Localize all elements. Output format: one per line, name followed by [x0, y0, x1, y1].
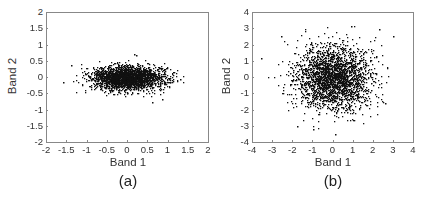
- x-tick-mark: [333, 140, 334, 142]
- y-tick-label: 1: [223, 55, 249, 66]
- y-tick-label: 4: [223, 6, 249, 17]
- x-tick-mark: [373, 140, 374, 142]
- y-tick-mark: [252, 61, 254, 62]
- x-tick-mark: [252, 140, 253, 142]
- x-tick-mark: [413, 140, 414, 142]
- x-axis-label-b: Band 1: [293, 156, 373, 168]
- y-tick-label: 3: [223, 22, 249, 33]
- x-tick-mark: [312, 140, 313, 142]
- plot-area-b: [252, 12, 414, 143]
- y-tick-mark: [252, 77, 254, 78]
- x-tick-mark: [353, 140, 354, 142]
- caption-b: (b): [313, 172, 353, 189]
- y-tick-mark: [252, 12, 254, 13]
- y-tick-mark: [252, 45, 254, 46]
- x-tick-mark: [292, 140, 293, 142]
- y-tick-label: 2: [223, 39, 249, 50]
- x-tick-mark: [393, 140, 394, 142]
- y-tick-mark: [252, 126, 254, 127]
- y-tick-label: -3: [223, 120, 249, 131]
- x-tick-mark: [272, 140, 273, 142]
- y-tick-label: 0: [223, 71, 249, 82]
- y-tick-mark: [252, 142, 254, 143]
- panel-b: Band 2 43210-1-2-3-4 -4-3-2-101234 Band …: [0, 0, 429, 198]
- scatter-points-b: [253, 13, 413, 142]
- y-tick-mark: [252, 110, 254, 111]
- y-tick-mark: [252, 28, 254, 29]
- y-tick-label: -1: [223, 87, 249, 98]
- y-tick-label: -2: [223, 104, 249, 115]
- y-tick-mark: [252, 93, 254, 94]
- x-tick-label: 4: [401, 144, 425, 155]
